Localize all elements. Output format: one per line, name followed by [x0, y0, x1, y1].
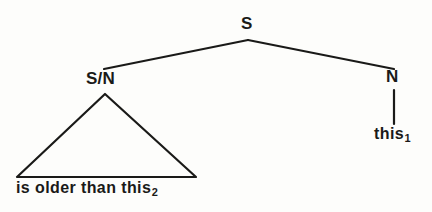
leaf-phrase-is-older-than-this2: is older than this2	[16, 180, 158, 196]
node-label-s-slash-n: S/N	[86, 70, 115, 87]
node-label-s: S	[241, 15, 253, 32]
elision-triangle	[17, 94, 196, 177]
leaf-phrase-subscript: 2	[152, 186, 159, 198]
leaf-this1-text: this	[374, 125, 404, 142]
branch-s-to-sn	[104, 40, 248, 69]
branch-s-to-n	[248, 40, 394, 69]
syntax-tree-figure: S S/N N this1 is older than this2	[0, 0, 432, 212]
leaf-this1: this1	[374, 126, 411, 142]
leaf-phrase-text: is older than this	[16, 179, 151, 196]
leaf-this1-subscript: 1	[405, 132, 412, 144]
node-label-n: N	[386, 68, 398, 85]
